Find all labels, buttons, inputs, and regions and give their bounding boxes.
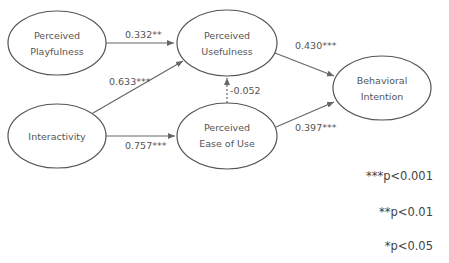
svg-text:Ease of Use: Ease of Use — [199, 138, 255, 149]
svg-text:Perceived: Perceived — [204, 122, 250, 133]
svg-text:Usefulness: Usefulness — [201, 46, 253, 57]
edge-interactivity-usefulness — [93, 61, 183, 113]
svg-text:Intention: Intention — [361, 91, 404, 102]
coef-ease-usefulness: -0.052 — [230, 85, 261, 96]
legend-p01: **p<0.01 — [379, 205, 433, 219]
path-diagram: Perceived Playfulness Perceived Usefulne… — [0, 0, 449, 263]
coef-ease-intention: 0.397*** — [295, 122, 337, 133]
node-perceived-playfulness: Perceived Playfulness — [8, 11, 106, 75]
coef-usefulness-intention: 0.430*** — [295, 40, 337, 51]
svg-text:Perceived: Perceived — [34, 30, 80, 41]
coef-interactivity-ease: 0.757*** — [125, 140, 167, 151]
svg-text:Playfulness: Playfulness — [30, 46, 84, 57]
svg-text:Behavioral: Behavioral — [357, 75, 408, 86]
node-perceived-ease-of-use: Perceived Ease of Use — [177, 103, 277, 169]
coef-playfulness-usefulness: 0.332** — [125, 29, 162, 40]
edge-usefulness-intention — [275, 53, 334, 76]
node-perceived-usefulness: Perceived Usefulness — [177, 10, 277, 76]
svg-text:Perceived: Perceived — [204, 30, 250, 41]
svg-text:Interactivity: Interactivity — [28, 131, 86, 142]
node-interactivity: Interactivity — [8, 104, 106, 168]
legend-p001: ***p<0.001 — [366, 169, 433, 183]
coef-interactivity-usefulness: 0.633*** — [109, 76, 151, 87]
node-behavioral-intention: Behavioral Intention — [333, 56, 431, 120]
legend-p05: *p<0.05 — [385, 239, 433, 253]
